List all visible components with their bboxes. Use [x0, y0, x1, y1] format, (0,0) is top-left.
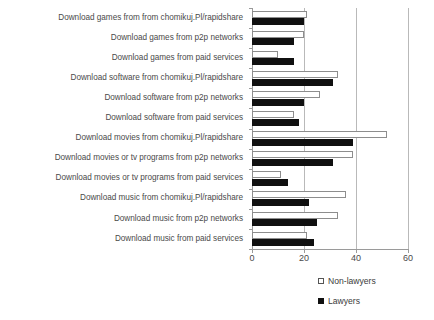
- category-label: Download movies from chomikuj.Pl/rapidsh…: [0, 128, 248, 148]
- bar-lawyers: [252, 179, 288, 186]
- bar-group: [252, 88, 408, 108]
- category-label: Download games from paid services: [0, 48, 248, 68]
- category-label: Download movies or tv programs from paid…: [0, 169, 248, 189]
- bar-non-lawyers: [252, 191, 346, 198]
- bar-lawyers: [252, 38, 294, 45]
- bar-non-lawyers: [252, 11, 307, 18]
- bar-lawyers: [252, 139, 353, 146]
- bar-non-lawyers: [252, 31, 304, 38]
- bar-lawyers: [252, 199, 309, 206]
- bar-group: [252, 209, 408, 229]
- bar-group: [252, 189, 408, 209]
- x-axis-tick-labels: 0204060: [252, 253, 422, 267]
- bar-group: [252, 128, 408, 148]
- bar-chart: Download games from from chomikuj.Pl/rap…: [0, 0, 434, 320]
- bar-group: [252, 229, 408, 249]
- bar-lawyers: [252, 219, 317, 226]
- bar-non-lawyers: [252, 131, 387, 138]
- bar-group: [252, 48, 408, 68]
- solid-square-icon: [318, 298, 324, 304]
- gridline: [408, 8, 409, 249]
- x-axis-tick-label: 40: [351, 253, 361, 263]
- chart-legend: Non-lawyers Lawyers: [318, 276, 428, 316]
- bar-lawyers: [252, 99, 304, 106]
- bar-lawyers: [252, 58, 294, 65]
- category-label: Download music from paid services: [0, 229, 248, 249]
- category-label: Download software from p2p networks: [0, 88, 248, 108]
- category-label: Download music from p2p networks: [0, 209, 248, 229]
- x-axis-tick-label: 0: [249, 253, 254, 263]
- x-axis-tick-label: 60: [403, 253, 413, 263]
- legend-label: Lawyers: [328, 296, 360, 306]
- bar-group: [252, 149, 408, 169]
- category-label: Download software from chomikuj.Pl/rapid…: [0, 68, 248, 88]
- open-square-icon: [318, 278, 324, 284]
- bar-group: [252, 68, 408, 88]
- bar-non-lawyers: [252, 51, 278, 58]
- x-axis-tick-label: 20: [299, 253, 309, 263]
- category-label: Download software from paid services: [0, 108, 248, 128]
- bar-lawyers: [252, 18, 304, 25]
- bar-rows: [252, 8, 408, 249]
- legend-item-non-lawyers: Non-lawyers: [318, 276, 428, 286]
- category-label: Download games from p2p networks: [0, 28, 248, 48]
- bar-lawyers: [252, 119, 299, 126]
- bar-non-lawyers: [252, 232, 307, 239]
- legend-label: Non-lawyers: [328, 276, 376, 286]
- bar-group: [252, 8, 408, 28]
- bar-non-lawyers: [252, 71, 338, 78]
- bar-non-lawyers: [252, 111, 294, 118]
- bar-non-lawyers: [252, 171, 281, 178]
- legend-item-lawyers: Lawyers: [318, 296, 428, 306]
- category-label: Download games from from chomikuj.Pl/rap…: [0, 8, 248, 28]
- bar-group: [252, 28, 408, 48]
- category-label: Download movies or tv programs from p2p …: [0, 149, 248, 169]
- bar-lawyers: [252, 159, 333, 166]
- bar-lawyers: [252, 239, 314, 246]
- x-axis-line: [252, 249, 409, 250]
- plot-area: [252, 8, 408, 249]
- bar-non-lawyers: [252, 91, 320, 98]
- bar-lawyers: [252, 79, 333, 86]
- category-axis-labels: Download games from from chomikuj.Pl/rap…: [0, 8, 248, 249]
- bar-group: [252, 169, 408, 189]
- bar-non-lawyers: [252, 212, 338, 219]
- bar-non-lawyers: [252, 151, 353, 158]
- bar-group: [252, 108, 408, 128]
- category-label: Download music from chomikuj.Pl/rapidsha…: [0, 189, 248, 209]
